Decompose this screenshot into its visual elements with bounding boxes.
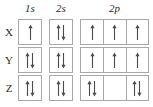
- orbital-group-x-1s: [18, 19, 42, 45]
- spin-up-arrow-icon: [135, 24, 140, 41]
- orbital-box-z-2s-1: [50, 76, 72, 100]
- spin-set: [56, 76, 66, 100]
- spin-up-arrow-icon: [112, 52, 117, 69]
- orbital-box-y-2p-1: [81, 48, 103, 72]
- orbital-box-y-1s-1: [19, 48, 41, 72]
- orbital-box-z-2p-3: [126, 76, 148, 100]
- spin-set: [112, 48, 117, 72]
- orbital-row-x: X: [0, 19, 153, 45]
- spin-set: [90, 20, 95, 44]
- spin-up-arrow-icon: [135, 52, 140, 69]
- spin-set: [25, 48, 35, 72]
- orbital-row-z: Z: [0, 75, 153, 101]
- column-header-1s: 1s: [17, 1, 43, 15]
- spin-down-arrow-icon: [137, 80, 142, 97]
- orbital-box-y-2p-2: [103, 48, 125, 72]
- spin-set: [132, 76, 142, 100]
- row-label-y: Y: [2, 47, 16, 73]
- orbital-group-z-1s: [18, 75, 42, 101]
- spin-down-arrow-icon: [61, 24, 66, 41]
- spin-down-arrow-icon: [30, 52, 35, 69]
- orbital-diagram: 1s 2s 2p X: [0, 0, 153, 107]
- orbital-group-x-2s: [49, 19, 73, 45]
- orbital-group-x-2p: [80, 19, 149, 45]
- orbital-row-y: Y: [0, 47, 153, 73]
- spin-down-arrow-icon: [61, 80, 66, 97]
- spin-set: [135, 20, 140, 44]
- spin-set: [135, 48, 140, 72]
- orbital-box-x-2p-3: [126, 20, 148, 44]
- orbital-box-y-2p-3: [126, 48, 148, 72]
- spin-up-arrow-icon: [90, 52, 95, 69]
- spin-down-arrow-icon: [30, 80, 35, 97]
- spin-up-arrow-icon: [90, 24, 95, 41]
- spin-down-arrow-icon: [92, 80, 97, 97]
- orbital-group-z-2s: [49, 75, 73, 101]
- spin-set: [25, 76, 35, 100]
- orbital-box-x-2p-2: [103, 20, 125, 44]
- spin-set: [90, 48, 95, 72]
- orbital-box-x-2p-1: [81, 20, 103, 44]
- spin-set: [87, 76, 97, 100]
- row-label-z: Z: [2, 75, 16, 101]
- spin-set: [112, 20, 117, 44]
- orbital-box-z-2p-1: [81, 76, 103, 100]
- column-header-2p: 2p: [79, 1, 150, 15]
- spin-up-arrow-icon: [112, 24, 117, 41]
- orbital-group-y-2p: [80, 47, 149, 73]
- orbital-box-x-1s-1: [19, 20, 41, 44]
- orbital-group-z-2p: [80, 75, 149, 101]
- spin-set: [28, 20, 33, 44]
- column-header-2s: 2s: [48, 1, 74, 15]
- orbital-box-z-2p-2: [103, 76, 125, 100]
- spin-set: [56, 48, 66, 72]
- column-header-row: 1s 2s 2p: [0, 0, 153, 18]
- orbital-box-x-2s-1: [50, 20, 72, 44]
- row-label-x: X: [2, 19, 16, 45]
- orbital-box-y-2s-1: [50, 48, 72, 72]
- orbital-group-y-2s: [49, 47, 73, 73]
- spin-up-arrow-icon: [28, 24, 33, 41]
- orbital-box-z-1s-1: [19, 76, 41, 100]
- spin-set: [56, 20, 66, 44]
- orbital-group-y-1s: [18, 47, 42, 73]
- spin-down-arrow-icon: [61, 52, 66, 69]
